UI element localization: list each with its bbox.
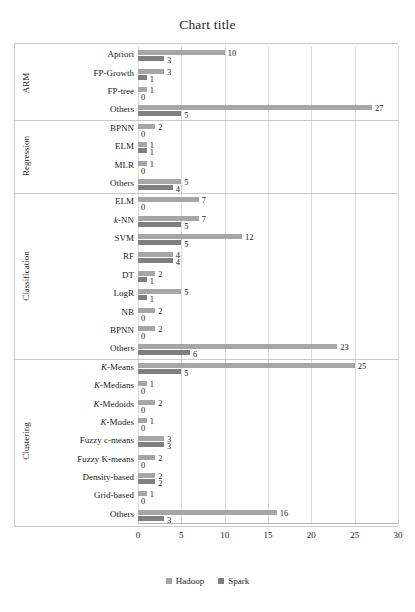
bar-group: 20 [138, 123, 398, 135]
data-label-spark: 3 [167, 442, 171, 451]
bar-hadoop[interactable] [138, 455, 155, 460]
data-label-spark: 0 [141, 167, 145, 176]
bar-spark[interactable] [138, 479, 155, 484]
data-label-hadoop: 2 [158, 123, 162, 132]
bar-group: 103 [138, 49, 398, 61]
bar-group: 54 [138, 178, 398, 190]
bar-spark[interactable] [138, 222, 181, 227]
bar-hadoop[interactable] [138, 473, 155, 478]
bar-hadoop[interactable] [138, 436, 164, 441]
grid-line [225, 46, 226, 524]
bar-hadoop[interactable] [138, 289, 181, 294]
data-label-spark: 0 [141, 424, 145, 433]
bar-group: 275 [138, 104, 398, 116]
bar-hadoop[interactable] [138, 69, 164, 74]
x-axis-ticks: 051015202530 [138, 530, 398, 544]
bar-spark[interactable] [138, 111, 181, 116]
bar-hadoop[interactable] [138, 400, 155, 405]
data-label-hadoop: 5 [184, 178, 188, 187]
bar-spark[interactable] [138, 148, 147, 153]
bar-spark[interactable] [138, 56, 164, 61]
bar-group: 20 [138, 399, 398, 411]
legend-label-hadoop: Hadoop [176, 576, 205, 586]
grid-line [398, 46, 399, 524]
bar-group: 10 [138, 380, 398, 392]
bar-spark[interactable] [138, 240, 181, 245]
data-label-hadoop: 23 [340, 343, 349, 352]
bar-hadoop[interactable] [138, 161, 147, 166]
bar-hadoop[interactable] [138, 234, 242, 239]
bar-hadoop[interactable] [138, 142, 147, 147]
plot-area: 1033110275201110547075125442151202023625… [138, 46, 398, 524]
bar-hadoop[interactable] [138, 344, 337, 349]
bar-group: 10 [138, 490, 398, 502]
bar-group: 10 [138, 160, 398, 172]
data-label-hadoop: 1 [150, 490, 154, 499]
data-label-spark: 0 [141, 461, 145, 470]
bar-hadoop[interactable] [138, 197, 199, 202]
data-label-spark: 1 [150, 75, 154, 84]
bar-group: 255 [138, 362, 398, 374]
data-label-hadoop: 16 [280, 509, 289, 518]
data-label-spark: 3 [167, 56, 171, 65]
grid-line [181, 46, 182, 524]
bar-group: 31 [138, 68, 398, 80]
bar-hadoop[interactable] [138, 363, 355, 368]
bar-group: 22 [138, 472, 398, 484]
x-tick-label: 10 [220, 530, 229, 540]
x-tick-label: 20 [307, 530, 316, 540]
group-label-text: Regression [21, 136, 31, 176]
group-separator [14, 120, 398, 121]
data-label-hadoop: 10 [228, 49, 237, 58]
data-label-spark: 1 [150, 148, 154, 157]
data-label-spark: 0 [141, 130, 145, 139]
data-label-spark: 3 [167, 516, 171, 525]
data-label-spark: 0 [141, 497, 145, 506]
data-label-spark: 0 [141, 314, 145, 323]
bar-group: 20 [138, 307, 398, 319]
bar-spark[interactable] [138, 369, 181, 374]
bar-spark[interactable] [138, 258, 173, 263]
data-label-hadoop: 1 [150, 160, 154, 169]
data-label-hadoop: 2 [158, 454, 162, 463]
bar-hadoop[interactable] [138, 308, 155, 313]
data-label-hadoop: 1 [150, 86, 154, 95]
bar-hadoop[interactable] [138, 50, 225, 55]
bar-spark[interactable] [138, 442, 164, 447]
bar-spark[interactable] [138, 75, 147, 80]
bar-group: 11 [138, 141, 398, 153]
bar-hadoop[interactable] [138, 252, 173, 257]
bar-hadoop[interactable] [138, 179, 181, 184]
bar-spark[interactable] [138, 350, 190, 355]
data-label-hadoop: 25 [358, 362, 367, 371]
group-label-text: ARM [21, 73, 31, 94]
group-label: Regression [14, 120, 38, 194]
data-label-hadoop: 3 [167, 68, 171, 77]
group-label: Classification [14, 193, 38, 358]
x-tick-label: 5 [179, 530, 184, 540]
bar-spark[interactable] [138, 277, 147, 282]
data-label-hadoop: 7 [202, 215, 206, 224]
bar-hadoop[interactable] [138, 216, 199, 221]
data-label-spark: 0 [141, 332, 145, 341]
data-label-hadoop: 12 [245, 233, 254, 242]
group-label-text: Clustering [21, 423, 31, 461]
bar-hadoop[interactable] [138, 124, 155, 129]
x-tick-label: 25 [350, 530, 359, 540]
data-label-hadoop: 1 [150, 380, 154, 389]
x-axis-line [138, 523, 398, 524]
bar-spark[interactable] [138, 295, 147, 300]
data-label-spark: 0 [141, 387, 145, 396]
data-label-spark: 4 [176, 258, 180, 267]
x-tick-label: 0 [136, 530, 141, 540]
bar-spark[interactable] [138, 516, 164, 521]
legend-item-hadoop[interactable]: Hadoop [166, 576, 205, 586]
legend-item-spark[interactable]: Spark [218, 576, 249, 586]
bar-hadoop[interactable] [138, 510, 277, 515]
x-tick-label: 30 [394, 530, 403, 540]
bar-group: 51 [138, 288, 398, 300]
bar-spark[interactable] [138, 185, 173, 190]
data-label-spark: 1 [150, 295, 154, 304]
grid-line [311, 46, 312, 524]
bar-hadoop[interactable] [138, 105, 372, 110]
